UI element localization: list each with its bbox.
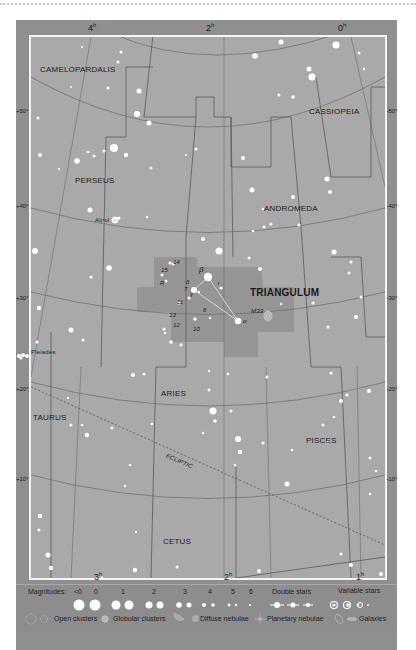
label-triangulum: TRIANGULUM bbox=[250, 287, 319, 298]
label-taurus: TAURUS bbox=[33, 413, 67, 422]
star-label-10: 10 bbox=[193, 326, 200, 332]
dec-label-left-50: +50° bbox=[16, 108, 29, 114]
dec-label-left-10: +10° bbox=[16, 476, 29, 482]
star-label-iota: ι bbox=[218, 280, 220, 286]
legend-magnitudes-label: Magnitudes: bbox=[28, 588, 66, 595]
legend-mag-0: 0 bbox=[94, 588, 98, 595]
star-label-beta: β bbox=[199, 265, 204, 274]
legend-mag-4: 4 bbox=[208, 588, 212, 595]
legend-galaxies: Galaxies bbox=[359, 615, 386, 622]
star-map-canvas bbox=[31, 37, 385, 578]
ra-label-bottom-3h: 3h bbox=[94, 571, 102, 582]
legend-open-clusters: Open clusters bbox=[54, 615, 97, 622]
star-label-alpha: α bbox=[243, 318, 247, 324]
star-label-14: 14 bbox=[173, 259, 180, 265]
dec-label-left-30: +30° bbox=[16, 295, 29, 301]
dec-label-left-40: +40° bbox=[16, 203, 29, 209]
star-label-6: 6 bbox=[203, 307, 207, 313]
star-map: CAMELOPARDALIS CASSIOPEIA PERSEUS ANDROM… bbox=[29, 35, 387, 580]
star-label-11: 11 bbox=[177, 299, 184, 305]
legend-mag-lt0: <0 bbox=[74, 588, 82, 595]
legend-mag-1: 1 bbox=[121, 588, 125, 595]
label-m33: M33 bbox=[251, 308, 263, 314]
label-pleiades: Pleiades bbox=[31, 349, 56, 355]
top-dotted-rule bbox=[0, 3, 416, 5]
legend-mag-3: 3 bbox=[183, 588, 187, 595]
dec-label-left-20: +20° bbox=[16, 386, 29, 392]
star-label-12: 12 bbox=[173, 322, 180, 328]
label-camelopardalis: CAMELOPARDALIS bbox=[40, 65, 116, 74]
label-perseus: PERSEUS bbox=[75, 176, 115, 185]
ra-label-top-2h: 2h bbox=[206, 22, 214, 33]
label-pisces: PISCES bbox=[306, 436, 337, 445]
legend-variable-stars: Variable stars bbox=[338, 587, 380, 594]
star-label-delta: δ bbox=[186, 279, 190, 285]
legend-planetary-nebulae: Planetary nebulae bbox=[267, 615, 323, 622]
label-cetus: CETUS bbox=[163, 537, 191, 546]
legend-mag-6: 6 bbox=[249, 588, 253, 595]
label-algol: Algol bbox=[95, 217, 109, 223]
star-label-15: 15 bbox=[161, 267, 168, 273]
ra-label-top-4h: 4h bbox=[88, 22, 96, 33]
legend-mag-5: 5 bbox=[231, 588, 235, 595]
ra-label-top-0h: 0h bbox=[338, 22, 346, 33]
star-label-R: R bbox=[160, 280, 165, 286]
legend-double-stars: Double stars bbox=[272, 588, 311, 595]
ra-label-bottom-1h: 1h bbox=[356, 571, 364, 582]
pleiades-cluster-icon bbox=[16, 346, 30, 354]
legend-diffuse-nebulae: Diffuse nebulae bbox=[200, 615, 249, 622]
label-andromeda: ANDROMEDA bbox=[264, 204, 318, 213]
star-label-gamma: γ bbox=[190, 291, 193, 297]
legend-globular-clusters: Globular clusters bbox=[113, 615, 166, 622]
label-cassiopeia: CASSIOPEIA bbox=[309, 107, 359, 116]
ra-label-bottom-2h: 2h bbox=[224, 571, 232, 582]
star-label-7: 7 bbox=[184, 286, 188, 292]
label-aries: ARIES bbox=[161, 389, 186, 398]
legend-mag-2: 2 bbox=[152, 588, 156, 595]
legend: Magnitudes: <0 0 1 2 3 4 5 6 Double star… bbox=[16, 584, 397, 633]
star-label-13: 13 bbox=[169, 312, 176, 318]
